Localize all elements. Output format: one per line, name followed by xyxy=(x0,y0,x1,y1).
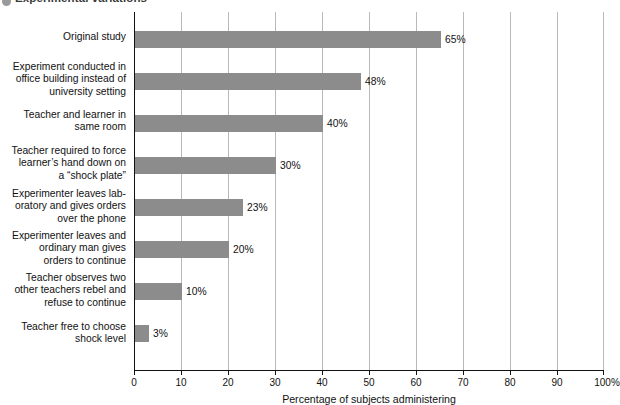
category-label: Original study xyxy=(0,31,126,43)
gridline xyxy=(463,12,464,370)
category-label: Experiment conducted in office building … xyxy=(0,61,126,98)
x-tick xyxy=(416,370,417,375)
bar xyxy=(135,241,229,258)
bullet-dot-icon xyxy=(2,0,11,6)
bar-value-label: 23% xyxy=(247,199,268,216)
x-tick xyxy=(369,370,370,375)
bar xyxy=(135,115,323,132)
x-tick-label: 0 xyxy=(131,377,137,388)
x-tick-label: 50 xyxy=(363,377,374,388)
x-tick-label: 60 xyxy=(410,377,421,388)
bar-value-label: 48% xyxy=(365,73,386,90)
category-label: Teacher observes two other teachers rebe… xyxy=(0,272,126,309)
gridline xyxy=(369,12,370,370)
bar-value-label: 30% xyxy=(280,157,301,174)
x-tick xyxy=(510,370,511,375)
gridline xyxy=(603,12,604,370)
bar-value-label: 10% xyxy=(186,283,207,300)
category-label: Experimenter leaves and ordinary man giv… xyxy=(0,230,126,267)
x-tick-label: 30 xyxy=(269,377,280,388)
category-axis-labels: Original study Experiment conducted in o… xyxy=(0,12,130,370)
x-tick-label: 10 xyxy=(175,377,186,388)
x-tick xyxy=(557,370,558,375)
bar xyxy=(135,31,441,48)
x-tick xyxy=(322,370,323,375)
category-label: Teacher and learner in same room xyxy=(0,109,126,134)
chart-heading-strip: Experimental variations xyxy=(0,0,611,9)
bar-value-label: 40% xyxy=(327,115,348,132)
gridline xyxy=(228,12,229,370)
category-label: Experimenter leaves lab- oratory and giv… xyxy=(0,188,126,225)
x-tick-label: 90 xyxy=(551,377,562,388)
plot-area: 65% 48% 40% 30% 23% 20% 10% 3% 0 10 20 3… xyxy=(134,12,604,370)
x-tick-label: 70 xyxy=(457,377,468,388)
x-tick-label: 80 xyxy=(504,377,515,388)
x-tick xyxy=(603,370,604,375)
category-label: Teacher free to choose shock level xyxy=(0,321,126,346)
chart-heading-text: Experimental variations xyxy=(15,0,147,4)
gridline xyxy=(275,12,276,370)
x-tick-label: 100% xyxy=(594,377,620,388)
gridline xyxy=(181,12,182,370)
x-tick-label: 40 xyxy=(316,377,327,388)
category-label: Teacher required to force learner’s hand… xyxy=(0,145,126,182)
bar-value-label: 65% xyxy=(445,31,466,48)
x-tick xyxy=(181,370,182,375)
y-axis-line xyxy=(134,12,135,370)
bar xyxy=(135,283,182,300)
bar xyxy=(135,325,149,342)
bar xyxy=(135,73,361,90)
x-axis-title: Percentage of subjects administering xyxy=(134,393,604,405)
x-tick xyxy=(134,370,135,375)
gridline xyxy=(322,12,323,370)
x-tick-label: 20 xyxy=(222,377,233,388)
x-tick xyxy=(463,370,464,375)
x-tick xyxy=(275,370,276,375)
gridline xyxy=(510,12,511,370)
bar-value-label: 3% xyxy=(153,325,168,342)
bar xyxy=(135,157,276,174)
bar xyxy=(135,199,243,216)
x-tick xyxy=(228,370,229,375)
gridline xyxy=(416,12,417,370)
bar-value-label: 20% xyxy=(233,241,254,258)
gridline xyxy=(557,12,558,370)
